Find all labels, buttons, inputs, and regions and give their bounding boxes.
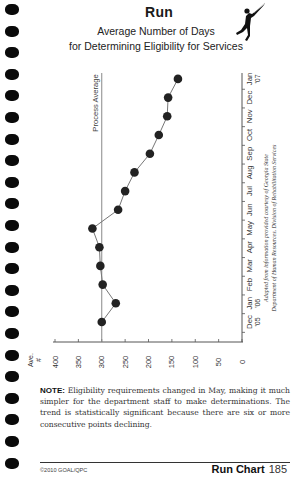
value-tick-label: 100 <box>191 356 200 369</box>
time-tick-label: Jul <box>245 186 254 196</box>
footer-section: Run Chart185 <box>211 463 287 475</box>
value-tick-label: 400 <box>51 356 60 369</box>
time-tick-label: Dec <box>245 91 254 105</box>
binding-hole <box>5 414 19 425</box>
data-point <box>114 206 123 215</box>
time-tick-label: Jun <box>245 204 254 217</box>
axis-label-ave: Ave. <box>27 353 34 367</box>
data-point <box>111 299 120 308</box>
time-tick-year: '07 <box>254 74 261 83</box>
time-tick-label: Apr <box>245 241 254 254</box>
data-point <box>98 280 107 289</box>
data-point <box>96 262 105 271</box>
binding-hole <box>5 393 19 404</box>
note-text: Eligibility requirements changed in May,… <box>40 386 290 429</box>
value-tick-label: 350 <box>74 356 83 369</box>
time-tick-label: Feb <box>245 277 254 291</box>
time-tick-label: Mar <box>245 259 254 273</box>
data-point <box>97 318 106 327</box>
data-point <box>88 224 97 233</box>
run-chart: 400350300250200150100500Ave.#Dec'05Jan'0… <box>0 0 292 380</box>
binding-hole <box>5 458 19 469</box>
time-tick-label: May <box>245 221 254 236</box>
page-number: 185 <box>269 463 287 475</box>
value-tick-label: 150 <box>167 356 176 369</box>
value-tick-label: 0 <box>238 360 247 364</box>
time-tick-label: Dec <box>245 315 254 329</box>
copyright: ©2010 GOAL/QPC <box>40 467 87 473</box>
data-point <box>95 243 104 252</box>
time-tick-label: Sep <box>245 146 254 161</box>
data-point <box>121 187 130 196</box>
value-tick-label: 300 <box>97 356 106 369</box>
data-point <box>163 112 172 121</box>
data-point <box>154 131 163 140</box>
value-tick-label: 250 <box>121 356 130 369</box>
section-title: Run Chart <box>211 463 264 475</box>
value-tick-label: 200 <box>144 356 153 369</box>
time-tick-label: Jan <box>245 297 254 310</box>
source-credit-line-2: Department of Human Resources, Division … <box>271 144 277 312</box>
data-point <box>146 149 155 158</box>
data-point <box>174 75 183 84</box>
data-point <box>130 168 139 177</box>
time-tick-label: Oct <box>245 128 254 141</box>
time-tick-year: '06 <box>254 299 261 308</box>
source-credit-line-1: Adapted from information provided courte… <box>263 154 269 303</box>
time-tick-label: Jan <box>245 73 254 86</box>
time-tick-year: '05 <box>254 317 261 326</box>
note-label: NOTE: <box>40 386 65 395</box>
process-average-label: Process Average <box>91 74 100 131</box>
time-tick-label: Aug <box>245 165 254 179</box>
value-tick-label: 50 <box>214 358 223 366</box>
axis-label-number: # <box>35 358 42 362</box>
note-paragraph: NOTE: Eligibility requirements changed i… <box>40 385 290 430</box>
data-point <box>164 93 173 102</box>
binding-hole <box>5 436 19 447</box>
time-tick-label: Nov <box>245 109 254 123</box>
